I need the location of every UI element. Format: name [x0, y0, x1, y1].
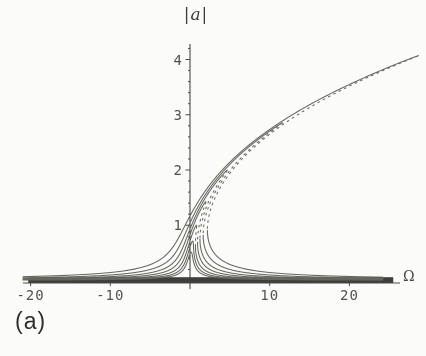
panel-label: (a) [15, 308, 46, 335]
y-axis-title: |a| [180, 4, 212, 24]
x-axis-label: Ω [403, 268, 425, 284]
resonance-figure: 1234 -20-101020 |a| Ω (a) [0, 0, 426, 356]
resonance-curves-canvas [0, 0, 426, 356]
